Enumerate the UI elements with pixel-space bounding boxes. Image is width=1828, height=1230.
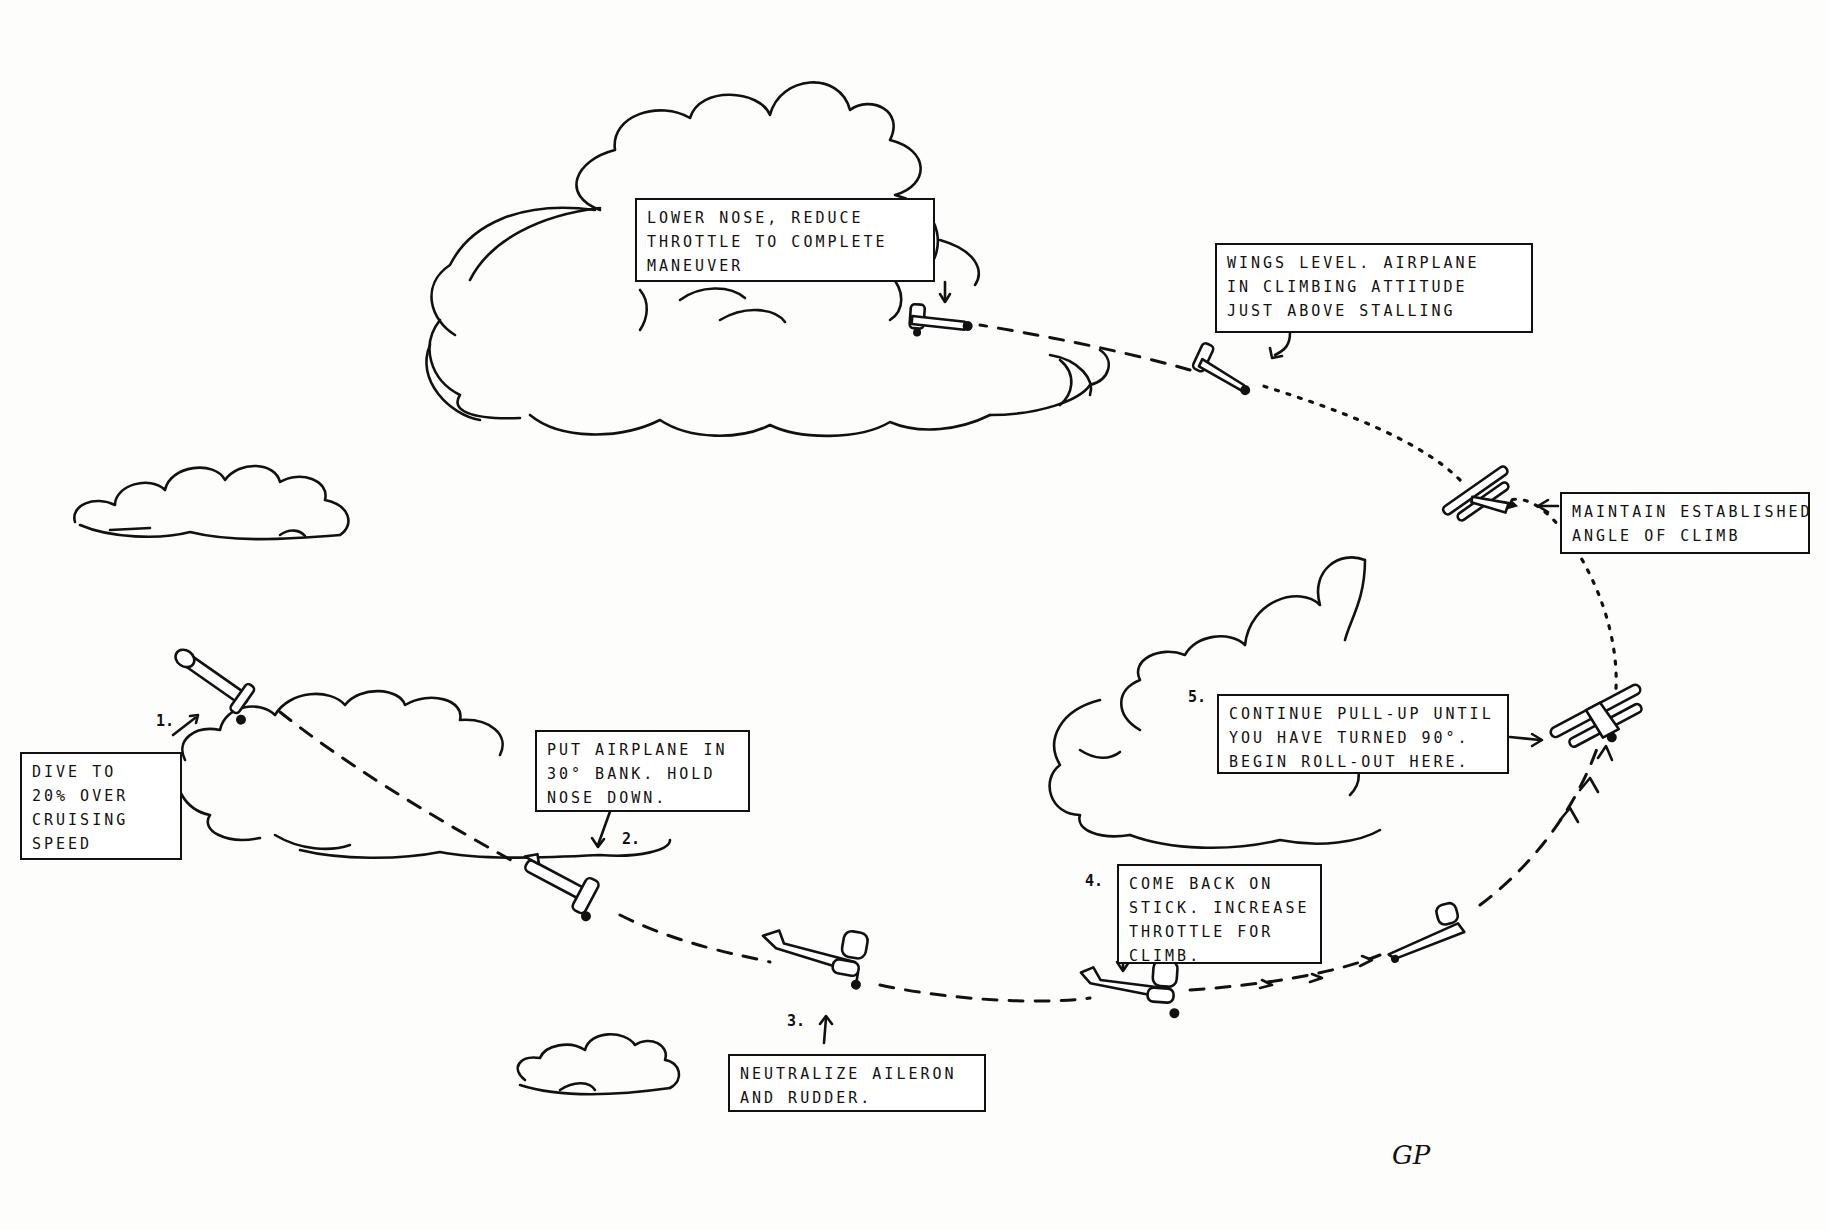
- callout-line: climb.: [1129, 944, 1310, 968]
- callout-line: Neutralize aileron: [740, 1062, 974, 1086]
- flight-path: [280, 325, 1616, 1001]
- callout-line: Maintain established: [1572, 500, 1798, 524]
- artist-signature: GP: [1392, 1140, 1430, 1170]
- callout-line: Come back on: [1129, 872, 1310, 896]
- callout-line: cruising: [32, 808, 170, 832]
- callout-line: Dive to: [32, 760, 170, 784]
- callout-line: Continue pull-up until: [1229, 702, 1497, 726]
- chandelle-diagram: Dive to 20% over cruising speed 1. Put a…: [0, 0, 1828, 1230]
- callout-line: Begin roll-out here.: [1229, 750, 1497, 774]
- callout-line: you have turned 90°.: [1229, 726, 1497, 750]
- callout-line: maneuver: [647, 254, 923, 278]
- callout-line: 30° bank. Hold: [547, 762, 738, 786]
- callout-leaders: [173, 282, 1558, 1043]
- callout-line: in climbing attitude: [1227, 275, 1521, 299]
- callout-bank: Put airplane in 30° bank. Hold nose down…: [535, 730, 750, 812]
- callout-line: angle of climb: [1572, 524, 1798, 548]
- callout-line: just above stalling: [1227, 299, 1521, 323]
- cloud-small-bottom: [518, 1034, 679, 1094]
- airplane-6-steep-bank: [1549, 683, 1657, 766]
- callout-lower-nose: Lower nose, reduce throttle to complete …: [635, 198, 935, 282]
- airplane-3-level: [757, 916, 870, 990]
- callout-line: Lower nose, reduce: [647, 206, 923, 230]
- callout-line: Put airplane in: [547, 738, 738, 762]
- callout-line: nose down.: [547, 786, 738, 810]
- callout-maintain: Maintain established angle of climb: [1560, 492, 1810, 554]
- callout-line: stick. Increase: [1129, 896, 1310, 920]
- step-number-5: 5.: [1188, 688, 1206, 706]
- callout-line: Wings level. Airplane: [1227, 251, 1521, 275]
- step-number-1: 1.: [156, 712, 174, 730]
- drawing-layer: [0, 0, 1828, 1230]
- callout-continue: Continue pull-up until you have turned 9…: [1217, 694, 1509, 774]
- step-number-3: 3.: [787, 1012, 805, 1030]
- callout-line: and rudder.: [740, 1086, 974, 1110]
- callout-line: throttle for: [1129, 920, 1310, 944]
- callout-neutralize: Neutralize aileron and rudder.: [728, 1054, 986, 1112]
- airplane-7-climb: [1442, 465, 1528, 543]
- airplane-8-near-stall: [1191, 342, 1261, 397]
- callout-wings-level: Wings level. Airplane in climbing attitu…: [1215, 243, 1533, 333]
- step-number-2: 2.: [622, 830, 640, 848]
- callout-line: 20% over: [32, 784, 170, 808]
- step-number-4: 4.: [1085, 872, 1103, 890]
- cloud-small-left: [74, 466, 348, 539]
- airplane-1-diving: [164, 640, 265, 727]
- airplane-9-recovery: [909, 304, 974, 340]
- callout-dive: Dive to 20% over cruising speed: [20, 752, 182, 860]
- callout-line: speed: [32, 832, 170, 856]
- callout-come-back: Come back on stick. Increase throttle fo…: [1117, 864, 1322, 964]
- airplane-5-climbing-turn: [1380, 901, 1468, 964]
- callout-line: throttle to complete: [647, 230, 923, 254]
